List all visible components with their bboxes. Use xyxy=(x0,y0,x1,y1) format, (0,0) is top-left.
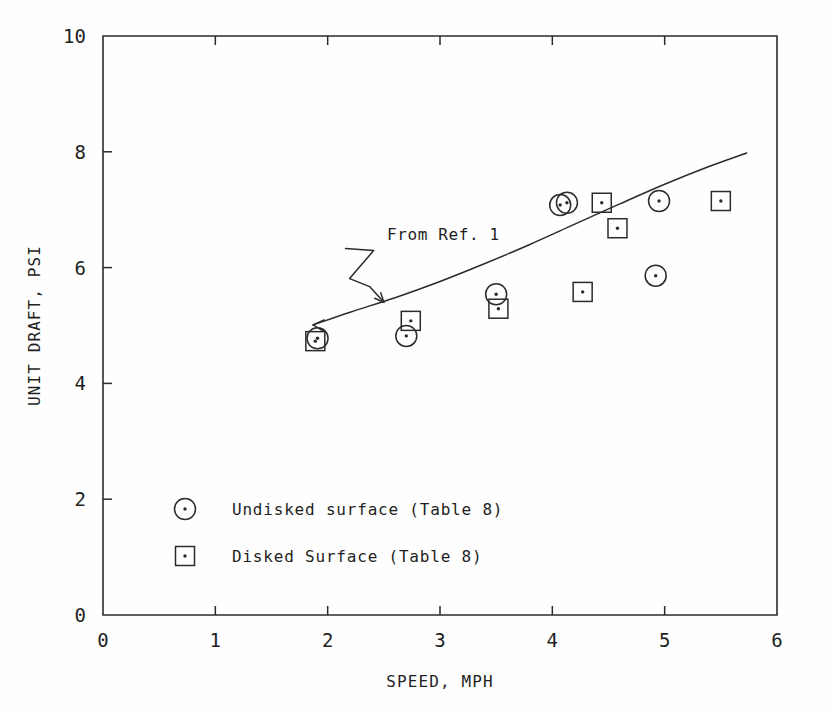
x-tick-label: 4 xyxy=(547,629,558,651)
x-tick-label: 3 xyxy=(434,629,445,651)
data-point-undisked xyxy=(645,265,666,286)
data-point-disked xyxy=(489,299,508,318)
annotation-label: From Ref. 1 xyxy=(387,225,500,244)
x-tick-label: 6 xyxy=(771,629,782,651)
x-tick-label: 1 xyxy=(210,629,221,651)
data-point-disked xyxy=(401,311,420,330)
legend-label: Disked Surface (Table 8) xyxy=(232,547,482,566)
x-axis-title: SPEED, MPH xyxy=(386,672,493,691)
legend-marker-circle xyxy=(175,499,196,520)
data-point-disked xyxy=(573,282,592,301)
chart-figure: 0123456 0246810 From Ref. 1 Undisked sur… xyxy=(0,0,829,714)
y-tick-label: 4 xyxy=(75,372,86,394)
chart-canvas: 0123456 0246810 From Ref. 1 Undisked sur… xyxy=(0,0,829,714)
x-tick-label: 0 xyxy=(97,629,108,651)
y-tick-label: 0 xyxy=(75,604,86,626)
y-axis-title: UNIT DRAFT, PSI xyxy=(25,245,44,406)
y-tick-label: 8 xyxy=(75,141,86,163)
data-point-undisked xyxy=(649,191,670,212)
x-axis-tick-labels: 0123456 xyxy=(97,629,782,651)
series-disked-surface xyxy=(306,192,731,351)
legend-label: Undisked surface (Table 8) xyxy=(232,500,503,519)
data-point-undisked xyxy=(550,195,571,216)
data-point-disked xyxy=(608,219,627,238)
y-tick-label: 6 xyxy=(75,257,86,279)
data-point-undisked xyxy=(556,192,577,213)
axis-frame xyxy=(103,36,777,615)
x-axis-ticks xyxy=(215,36,664,615)
data-point-disked xyxy=(711,192,730,211)
legend-marker-square xyxy=(176,547,195,566)
chart-legend: Undisked surface (Table 8)Disked Surface… xyxy=(175,499,504,567)
y-tick-label: 2 xyxy=(75,488,86,510)
x-tick-label: 2 xyxy=(322,629,333,651)
series-undisked-surface xyxy=(307,191,669,349)
y-tick-label: 10 xyxy=(63,25,86,47)
data-point-undisked xyxy=(396,325,417,346)
y-axis-tick-labels: 0246810 xyxy=(63,25,86,626)
y-axis-ticks xyxy=(103,152,112,499)
x-tick-label: 5 xyxy=(659,629,670,651)
